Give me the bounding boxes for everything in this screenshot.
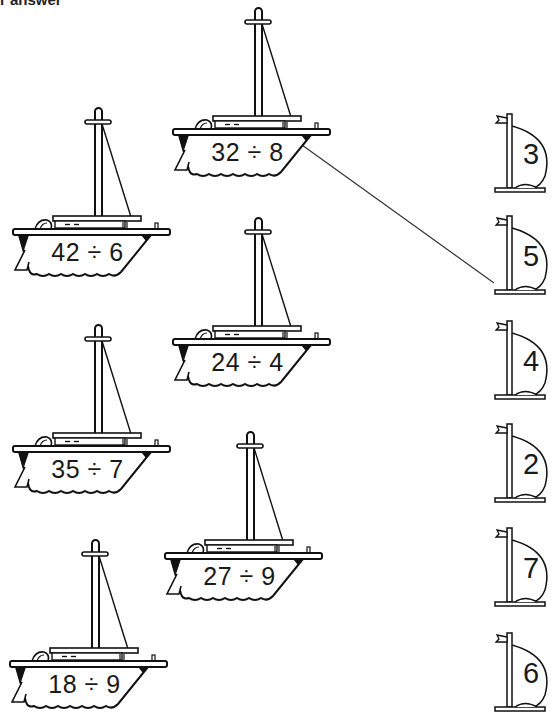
answer-value: 5	[515, 236, 547, 276]
division-problem-boat-2[interactable]: 42 ÷ 6	[5, 100, 170, 280]
instruction-text: r answer	[0, 0, 62, 8]
problem-expression: 18 ÷ 9	[2, 669, 167, 699]
answer-value: 6	[515, 653, 547, 693]
answer-sailboat-4[interactable]: 4	[493, 315, 553, 405]
answer-sailboat-6[interactable]: 6	[493, 627, 553, 716]
problem-expression: 32 ÷ 8	[165, 137, 330, 167]
problem-expression: 42 ÷ 6	[5, 237, 170, 267]
answer-value: 3	[515, 134, 547, 174]
division-problem-boat-1[interactable]: 32 ÷ 8	[165, 0, 330, 180]
answer-sailboat-5[interactable]: 5	[493, 210, 553, 300]
division-problem-boat-4[interactable]: 35 ÷ 7	[5, 317, 170, 497]
problem-expression: 35 ÷ 7	[5, 454, 170, 484]
division-problem-boat-5[interactable]: 27 ÷ 9	[157, 424, 322, 604]
answer-sailboat-7[interactable]: 7	[493, 522, 553, 612]
division-problem-boat-6[interactable]: 18 ÷ 9	[2, 532, 167, 712]
division-problem-boat-3[interactable]: 24 ÷ 4	[165, 210, 330, 390]
problem-expression: 27 ÷ 9	[157, 561, 322, 591]
answer-value: 2	[515, 444, 547, 484]
answer-value: 4	[515, 341, 547, 381]
answer-value: 7	[515, 548, 547, 588]
problem-expression: 24 ÷ 4	[165, 347, 330, 377]
answer-sailboat-3[interactable]: 3	[493, 108, 553, 198]
answer-sailboat-2[interactable]: 2	[493, 418, 553, 508]
